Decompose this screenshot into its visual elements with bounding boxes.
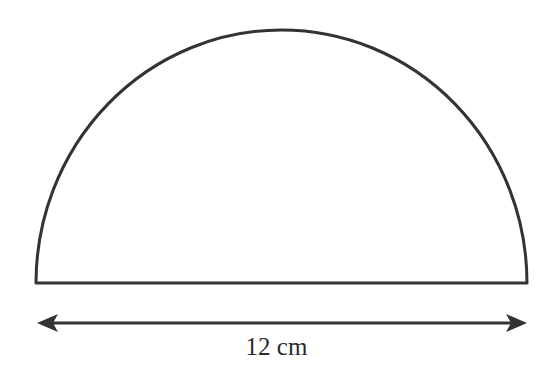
dimension-arrow: [37, 314, 527, 332]
semicircle-diagram: [0, 0, 553, 379]
diameter-label: 12 cm: [0, 333, 553, 361]
semicircle-shape: [36, 30, 527, 283]
